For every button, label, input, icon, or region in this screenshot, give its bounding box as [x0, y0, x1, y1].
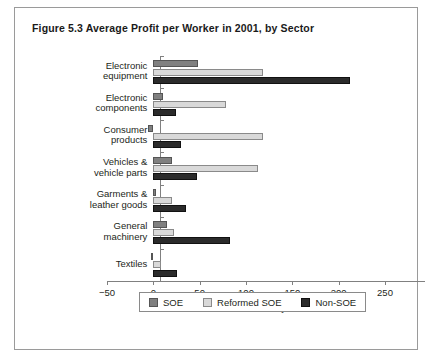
x-axis-tick-label: −50 — [99, 287, 115, 298]
y-axis-tick — [160, 120, 164, 121]
bar-reformed — [153, 229, 173, 236]
chart-plot-area: −50050100150200250 ElectronicequipmentEl… — [32, 48, 402, 293]
bar-nonsoe — [153, 270, 177, 277]
chart-legend: SOEReformed SOENon-SOE — [139, 292, 366, 312]
category-label-line: machinery — [0, 232, 147, 243]
legend-entry: Reformed SOE — [203, 297, 281, 308]
category-label-line: equipment — [0, 71, 147, 82]
bar-nonsoe — [153, 237, 230, 244]
x-axis-tick — [339, 281, 340, 285]
bar-soe — [153, 93, 162, 100]
bar-soe — [153, 221, 167, 228]
bar-reformed — [153, 197, 172, 204]
y-axis-tick — [160, 249, 164, 250]
bar-soe — [153, 189, 156, 196]
category-label-line: vehicle parts — [0, 168, 147, 179]
category-label: Electronicequipment — [0, 61, 147, 82]
x-axis-tick — [292, 281, 293, 285]
legend-entry: SOE — [149, 297, 183, 308]
y-axis-tick — [160, 185, 164, 186]
category-label: Electroniccomponents — [0, 93, 147, 114]
bar-reformed — [153, 165, 258, 172]
category-label-line: Vehicles & — [0, 157, 147, 168]
legend-label: SOE — [163, 297, 183, 308]
bar-reformed — [153, 261, 160, 268]
bar-reformed — [153, 133, 262, 140]
legend-swatch-reformed — [203, 298, 212, 307]
bar-soe — [151, 253, 154, 260]
category-label-line: leather goods — [0, 200, 147, 211]
legend-entry: Non-SOE — [301, 297, 356, 308]
x-axis-tick — [107, 281, 108, 285]
category-label: Consumerproducts — [0, 125, 147, 146]
x-axis-tick — [153, 281, 154, 285]
bar-reformed — [153, 101, 225, 108]
category-label-line: components — [0, 103, 147, 114]
legend-swatch-soe — [149, 298, 158, 307]
bar-nonsoe — [153, 173, 197, 180]
chart-axes: −50050100150200250 ElectronicequipmentEl… — [107, 56, 425, 281]
x-axis-tick — [200, 281, 201, 285]
figure-frame: Figure 5.3 Average Profit per Worker in … — [14, 7, 418, 350]
x-axis-tick — [246, 281, 247, 285]
legend-swatch-nonsoe — [301, 298, 310, 307]
bar-nonsoe — [153, 77, 349, 84]
bar-reformed — [153, 69, 262, 76]
x-axis-tick-label: 250 — [377, 287, 393, 298]
legend-label: Non-SOE — [315, 297, 356, 308]
category-label-line: products — [0, 135, 147, 146]
y-axis-tick — [160, 281, 164, 282]
bar-nonsoe — [153, 205, 185, 212]
category-label-line: Textiles — [0, 259, 147, 270]
y-axis-tick — [160, 88, 164, 89]
figure-title: Figure 5.3 Average Profit per Worker in … — [32, 22, 314, 34]
y-axis-tick — [160, 56, 164, 57]
category-label: Generalmachinery — [0, 221, 147, 242]
y-axis-tick — [160, 217, 164, 218]
bar-nonsoe — [153, 141, 181, 148]
legend-label: Reformed SOE — [217, 297, 281, 308]
category-label: Garments &leather goods — [0, 189, 147, 210]
category-label: Textiles — [0, 259, 147, 270]
x-axis-line — [107, 281, 425, 282]
y-axis-tick — [160, 152, 164, 153]
bar-soe — [153, 157, 172, 164]
bar-soe — [148, 125, 154, 132]
category-label: Vehicles &vehicle parts — [0, 157, 147, 178]
bar-nonsoe — [153, 109, 175, 116]
x-axis-tick — [385, 281, 386, 285]
bar-soe — [153, 60, 197, 67]
